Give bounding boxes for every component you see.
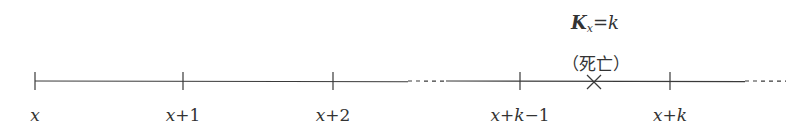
axis-solid-segment	[35, 81, 408, 82]
death-cross-icon	[587, 75, 601, 89]
tick-label-variable: x	[653, 105, 663, 125]
diagram-title: Kx=k	[571, 14, 619, 34]
tick-label-variable: x	[490, 105, 500, 125]
event-label-death: （死亡）	[562, 56, 630, 73]
tick-label-offset: +k	[663, 105, 688, 125]
tick-label: x	[30, 107, 40, 124]
tick-label: x+2	[316, 107, 351, 124]
tick-label: x+k	[653, 107, 687, 124]
tick-label-variable: x	[30, 105, 40, 125]
tick-label: x+1	[166, 107, 201, 124]
title-symbol: K	[571, 12, 587, 33]
tick-label-offset: +k−1	[500, 105, 550, 125]
tick-label-offset: +2	[325, 105, 350, 125]
tick-label-variable: x	[316, 105, 326, 125]
title-rest: =k	[593, 12, 619, 33]
tick-label-offset: +1	[175, 105, 200, 125]
timeline-axis	[35, 81, 786, 82]
tick-label-variable: x	[166, 105, 176, 125]
tick-label: x+k−1	[490, 107, 549, 124]
